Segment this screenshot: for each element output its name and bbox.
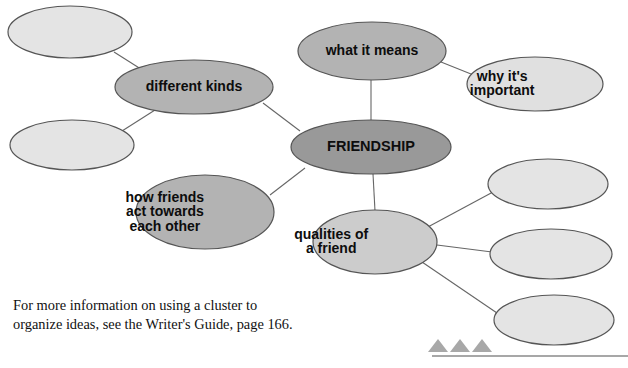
- caption-text: For more information on using a cluster …: [13, 296, 363, 334]
- connector-line: [373, 174, 375, 211]
- node-empty-r1[interactable]: [488, 159, 608, 209]
- node-label: why it'simportant: [470, 67, 535, 98]
- connector-line: [426, 192, 493, 228]
- node-why-important[interactable]: why it'simportant: [467, 57, 603, 111]
- diagram-stage: different kindswhat it meanswhy it'simpo…: [0, 0, 628, 368]
- node-ellipse: [488, 159, 608, 209]
- node-label: FRIENDSHIP: [327, 138, 415, 154]
- connector-line: [441, 62, 476, 76]
- node-ellipse: [10, 120, 134, 170]
- node-layer: different kindswhat it meanswhy it'simpo…: [8, 6, 614, 345]
- node-label: what it means: [325, 42, 419, 58]
- node-empty-r3[interactable]: [494, 295, 614, 345]
- node-friendship[interactable]: FRIENDSHIP: [291, 120, 451, 174]
- connector-line: [422, 262, 497, 313]
- node-ellipse: [494, 295, 614, 345]
- triangle-marker-icon: [428, 339, 448, 352]
- node-empty-bl[interactable]: [10, 120, 134, 170]
- node-ellipse: [490, 229, 612, 279]
- node-label: different kinds: [146, 78, 243, 94]
- connector-line: [122, 110, 155, 131]
- node-qualities[interactable]: qualities ofa friend: [294, 210, 437, 274]
- triangle-marker-icon: [450, 339, 470, 352]
- node-what-it-means[interactable]: what it means: [298, 22, 446, 80]
- node-label: how friendsact towardseach other: [126, 188, 205, 233]
- node-empty-r2[interactable]: [490, 229, 612, 279]
- node-different-kinds[interactable]: different kinds: [115, 60, 273, 114]
- node-ellipse: [8, 6, 132, 58]
- connector-line: [270, 168, 305, 195]
- connector-line: [263, 103, 300, 131]
- node-empty-tl[interactable]: [8, 6, 132, 58]
- connector-line: [437, 245, 492, 252]
- triangle-marker-icon: [472, 339, 492, 352]
- node-how-friends-act[interactable]: how friendsact towardseach other: [126, 175, 274, 249]
